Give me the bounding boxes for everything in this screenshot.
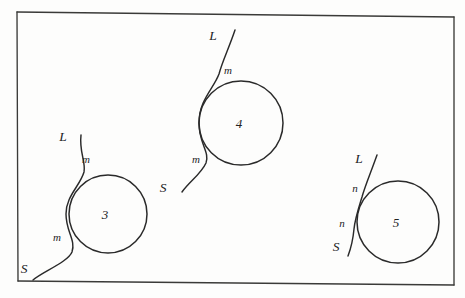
figure-5-number: 5	[393, 215, 400, 230]
figure-3-label-m-lower: m	[53, 231, 61, 243]
figure-5-label-L: L	[354, 151, 363, 166]
figure-3-number: 3	[101, 207, 109, 222]
figure-5-label-n-lower: n	[339, 217, 345, 229]
figure-5-label-S: S	[333, 239, 340, 254]
figure-4-label-m-lower: m	[192, 153, 200, 165]
figure-5: L S n n 5	[333, 151, 439, 263]
figure-4-label-m-upper: m	[224, 64, 232, 76]
figure-5-label-n-upper: n	[352, 182, 358, 194]
figure-4: L S m m 4	[160, 28, 283, 195]
figure-3-label-L: L	[58, 129, 67, 144]
figure-4-line	[182, 30, 235, 192]
figure-5-line	[348, 155, 377, 256]
figure-4-label-L: L	[208, 28, 217, 43]
figure-3-line	[33, 135, 84, 280]
figure-4-label-S: S	[160, 180, 167, 195]
figure-3-label-S: S	[21, 261, 28, 276]
figure-3: L S m m 3	[21, 129, 147, 280]
figure-3-label-m-upper: m	[82, 153, 90, 165]
figure-4-number: 4	[236, 116, 243, 131]
diagram-canvas: L S m m 3 L S m m 4 L S n n 5	[0, 0, 465, 298]
diagram-root: L S m m 3 L S m m 4 L S n n 5	[0, 0, 465, 298]
